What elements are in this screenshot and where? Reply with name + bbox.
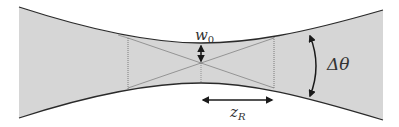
gaussian-beam-diagram: w0 zR Δθ: [0, 0, 399, 127]
rayleigh-range-label: zR: [229, 103, 246, 122]
waist-label: w0: [195, 26, 214, 45]
divergence-label: Δθ: [326, 54, 350, 74]
